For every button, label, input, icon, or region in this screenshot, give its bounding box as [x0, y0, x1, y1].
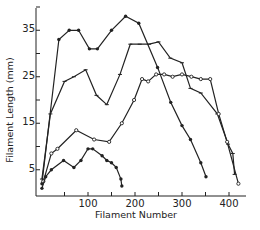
data-point-marker [226, 140, 229, 143]
data-point-marker [119, 177, 122, 180]
y-tick-label: 25 [22, 70, 35, 81]
x-tick-label: 100 [78, 198, 97, 209]
data-point-marker [147, 80, 150, 83]
data-point-marker [155, 73, 158, 76]
data-point-marker [115, 166, 118, 169]
y-tick-label: 15 [22, 116, 35, 127]
x-tick-label: 400 [219, 198, 238, 209]
data-point-marker [180, 124, 183, 127]
data-point-marker [100, 154, 103, 157]
data-point-marker [132, 98, 135, 101]
data-point-marker [56, 147, 59, 150]
data-point-marker [140, 77, 143, 80]
x-tick-label: 200 [125, 198, 144, 209]
data-point-marker [93, 138, 96, 141]
data-point-marker [190, 75, 193, 78]
data-point-marker [237, 182, 240, 185]
data-point-marker [199, 77, 202, 80]
data-point-marker [75, 129, 78, 132]
line-chart: 1002003004005152535 Filament Number Fila… [0, 0, 260, 230]
data-point-marker [50, 152, 53, 155]
series-group [40, 15, 240, 190]
data-point-marker [156, 66, 159, 69]
y-tick-label: 35 [22, 23, 35, 34]
series-line [42, 149, 122, 189]
data-point-marker [40, 187, 43, 190]
data-point-marker [204, 175, 207, 178]
data-point-marker [199, 161, 202, 164]
data-point-marker [50, 168, 53, 171]
data-point-marker [189, 138, 192, 141]
data-point-marker [88, 47, 91, 50]
data-point-marker [171, 75, 174, 78]
data-point-marker [57, 38, 60, 41]
data-point-marker [96, 47, 99, 50]
x-tick-label: 300 [172, 198, 191, 209]
data-point-marker [209, 77, 212, 80]
series-line [42, 42, 235, 179]
data-point-marker [108, 140, 111, 143]
series-1 [40, 15, 207, 186]
series-3 [42, 73, 240, 185]
series-2 [40, 42, 237, 179]
data-point-marker [72, 166, 75, 169]
data-point-marker [110, 29, 113, 32]
data-point-marker [217, 112, 220, 115]
data-point-marker [68, 29, 71, 32]
series-line [42, 16, 206, 183]
data-point-marker [62, 159, 65, 162]
data-point-marker [77, 29, 80, 32]
data-point-marker [79, 159, 82, 162]
data-point-marker [180, 73, 183, 76]
data-point-marker [120, 122, 123, 125]
data-point-marker [124, 15, 127, 18]
y-axis-label: Filament Length (mm) [4, 57, 15, 162]
data-point-marker [137, 22, 140, 25]
data-point-marker [91, 147, 94, 150]
data-point-marker [86, 147, 89, 150]
data-point-marker [120, 184, 123, 187]
data-point-marker [110, 161, 113, 164]
y-tick-label: 5 [29, 163, 35, 174]
data-point-marker [163, 73, 166, 76]
data-point-marker [44, 175, 47, 178]
data-point-marker [169, 101, 172, 104]
x-axis-label: Filament Number [95, 209, 177, 220]
data-point-marker [105, 159, 108, 162]
